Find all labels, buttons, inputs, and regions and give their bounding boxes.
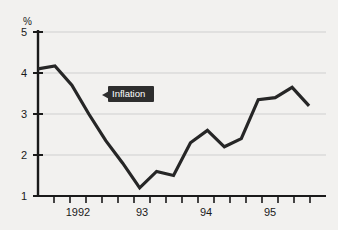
x-tick-label-93: 93 xyxy=(136,206,148,218)
y-tick-label-3: 3 xyxy=(21,108,27,120)
y-tick-label-4: 4 xyxy=(21,67,27,79)
inflation-annotation: Inflation xyxy=(102,86,154,102)
chart-card: % 5 4 3 2 1 1992 93 94 95 Inflation xyxy=(0,0,338,230)
y-tick-label-1: 1 xyxy=(21,190,27,202)
y-tick-label-5: 5 xyxy=(21,26,27,38)
annotation-label: Inflation xyxy=(112,88,145,99)
y-tick-label-2: 2 xyxy=(21,149,27,161)
inflation-line-chart: % 5 4 3 2 1 1992 93 94 95 Inflation xyxy=(0,0,338,230)
x-tick-label-95: 95 xyxy=(264,206,276,218)
inflation-series-line xyxy=(38,66,309,188)
x-tick-label-94: 94 xyxy=(200,206,212,218)
x-tick-label-1992: 1992 xyxy=(66,206,90,218)
